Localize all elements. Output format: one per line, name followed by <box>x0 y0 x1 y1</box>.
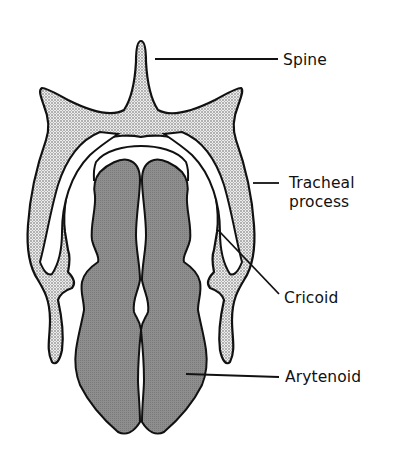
arytenoid-label-text: Arytenoid <box>285 368 361 386</box>
cricoid-label: Cricoid <box>284 290 338 307</box>
spine-label-text: Spine <box>283 51 327 69</box>
larynx-diagram: Spine Tracheal process Cricoid Arytenoid <box>0 0 397 459</box>
cricoid-label-text: Cricoid <box>284 289 338 307</box>
left-arytenoid <box>75 160 141 434</box>
right-arytenoid <box>141 160 207 434</box>
cartilage-illustration <box>0 0 397 459</box>
arytenoid-label: Arytenoid <box>285 369 361 386</box>
tracheal-process-label-line1: Tracheal <box>289 175 355 192</box>
spine-label: Spine <box>283 52 327 69</box>
tracheal-process-label: Tracheal process <box>289 175 355 211</box>
tracheal-process-label-line2: process <box>289 194 355 211</box>
